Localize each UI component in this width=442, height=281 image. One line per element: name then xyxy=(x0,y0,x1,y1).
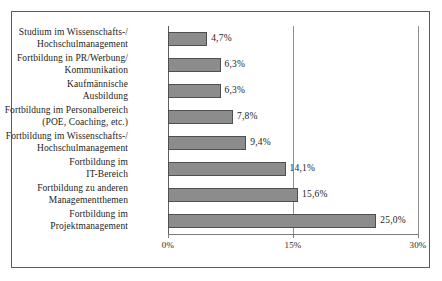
category-label: Fortbildung im Personalbereich(POE, Coac… xyxy=(0,105,128,128)
category-label: Fortbildung imProjektmanagement xyxy=(0,209,128,232)
category-label: KaufmännischeAusbildung xyxy=(0,79,128,102)
chart-frame: 4,7%Studium im Wissenschafts-/Hochschulm… xyxy=(11,11,430,268)
category-label-line: Fortbildung im Wissenschafts-/ xyxy=(0,131,128,143)
category-label-line: Hochschulmanagement xyxy=(0,39,128,51)
gridline-30 xyxy=(418,26,419,234)
chart-row: 25,0%Fortbildung imProjektmanagement xyxy=(168,208,418,234)
chart-row: 7,8%Fortbildung im Personalbereich(POE, … xyxy=(168,104,418,130)
category-label-line: Kaufmännische xyxy=(0,79,128,91)
category-label-line: Fortbildung zu anderen xyxy=(0,183,128,195)
category-label-line: Fortbildung im xyxy=(0,157,128,169)
bar-value-label: 6,3% xyxy=(225,57,246,71)
x-tick-mark xyxy=(418,234,419,238)
plot-area: 4,7%Studium im Wissenschafts-/Hochschulm… xyxy=(168,26,418,234)
bar xyxy=(168,162,286,176)
category-label-line: Studium im Wissenschafts-/ xyxy=(0,27,128,39)
category-label: Fortbildung in PR/Werbung/Kommunikation xyxy=(0,53,128,76)
bar xyxy=(168,32,207,46)
category-label: Studium im Wissenschafts-/Hochschulmanag… xyxy=(0,27,128,50)
chart-screenshot: 4,7%Studium im Wissenschafts-/Hochschulm… xyxy=(0,0,442,281)
x-tick-mark xyxy=(293,234,294,238)
category-label-line: Fortbildung im Personalbereich xyxy=(0,105,128,117)
bar-value-label: 15,6% xyxy=(302,187,328,201)
chart-row: 6,3%KaufmännischeAusbildung xyxy=(168,78,418,104)
category-label-line: Kommunikation xyxy=(0,65,128,77)
bar xyxy=(168,188,298,202)
chart-row: 4,7%Studium im Wissenschafts-/Hochschulm… xyxy=(168,26,418,52)
bar-value-label: 9,4% xyxy=(250,135,271,149)
chart-row: 15,6%Fortbildung zu anderenManagementthe… xyxy=(168,182,418,208)
bar xyxy=(168,84,221,98)
bar xyxy=(168,214,376,228)
chart-row: 6,3%Fortbildung in PR/Werbung/Kommunikat… xyxy=(168,52,418,78)
category-label: Fortbildung imIT-Bereich xyxy=(0,157,128,180)
bar xyxy=(168,110,233,124)
category-label-line: Projektmanagement xyxy=(0,221,128,233)
x-tick-mark xyxy=(168,234,169,238)
x-tick-label: 0% xyxy=(148,240,188,251)
category-label-line: (POE, Coaching, etc.) xyxy=(0,117,128,129)
category-label-line: Managementthemen xyxy=(0,195,128,207)
category-label-line: IT-Bereich xyxy=(0,169,128,181)
bar-value-label: 25,0% xyxy=(380,213,406,227)
x-tick-label: 30% xyxy=(398,240,438,251)
category-label-line: Hochschulmanagement xyxy=(0,143,128,155)
category-label-line: Fortbildung im xyxy=(0,209,128,221)
category-label: Fortbildung zu anderenManagementthemen xyxy=(0,183,128,206)
category-label-line: Fortbildung in PR/Werbung/ xyxy=(0,53,128,65)
chart-row: 9,4%Fortbildung im Wissenschafts-/Hochsc… xyxy=(168,130,418,156)
bar-value-label: 4,7% xyxy=(211,31,232,45)
bar-value-label: 14,1% xyxy=(290,161,316,175)
chart-row: 14,1%Fortbildung imIT-Bereich xyxy=(168,156,418,182)
bar-value-label: 6,3% xyxy=(225,83,246,97)
bar xyxy=(168,136,246,150)
category-label-line: Ausbildung xyxy=(0,91,128,103)
bar-value-label: 7,8% xyxy=(237,109,258,123)
bar xyxy=(168,58,221,72)
category-label: Fortbildung im Wissenschafts-/Hochschulm… xyxy=(0,131,128,154)
x-tick-label: 15% xyxy=(273,240,313,251)
